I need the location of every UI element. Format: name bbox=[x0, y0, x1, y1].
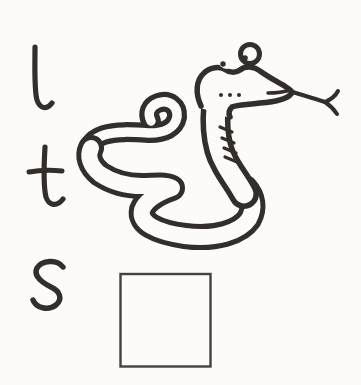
snake-eyes bbox=[218, 45, 260, 70]
letter-choice-l[interactable] bbox=[35, 47, 52, 108]
letter-s-glyph bbox=[33, 261, 63, 308]
snake-illustration bbox=[87, 45, 338, 238]
answer-box[interactable] bbox=[121, 274, 211, 367]
snake-eye-right bbox=[241, 45, 260, 64]
letter-t-stem bbox=[44, 147, 63, 204]
snake-pupil-left bbox=[220, 61, 225, 66]
worksheet-canvas bbox=[0, 0, 361, 385]
snake-face-dots bbox=[219, 93, 241, 97]
snake-pupil-right bbox=[242, 55, 248, 61]
letter-choice-s[interactable] bbox=[33, 261, 63, 308]
letter-t-crossbar bbox=[29, 170, 62, 172]
snake-head bbox=[197, 67, 292, 118]
snake-eye-left bbox=[218, 51, 236, 69]
letter-l-glyph bbox=[35, 47, 52, 108]
snake-tongue bbox=[293, 91, 338, 114]
letter-choice-t[interactable] bbox=[29, 147, 63, 204]
worksheet-page: l t s bbox=[0, 0, 361, 385]
